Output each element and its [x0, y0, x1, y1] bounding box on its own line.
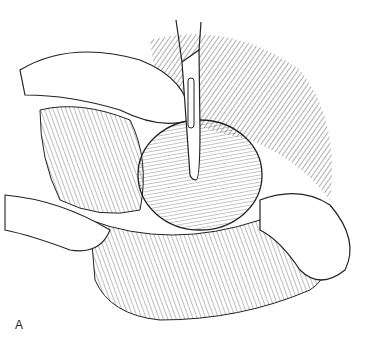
panel-label: A: [15, 318, 23, 332]
surgical-drawing: [0, 0, 365, 351]
tissue-folds-left: [40, 107, 143, 214]
illustration: A: [0, 0, 365, 351]
